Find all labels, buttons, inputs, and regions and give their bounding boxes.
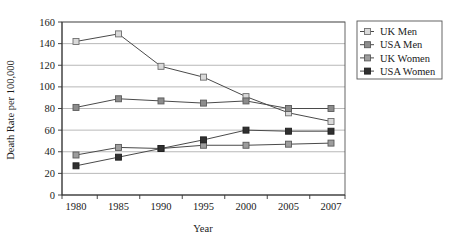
y-tick-label: 160 <box>39 17 55 28</box>
data-point-usa-men <box>286 106 292 112</box>
x-tick-label: 1990 <box>151 201 172 212</box>
y-tick-label: 40 <box>45 146 56 157</box>
data-point-uk-women <box>243 142 249 148</box>
data-point-uk-men <box>116 31 122 37</box>
data-point-usa-men <box>201 100 207 106</box>
legend-marker-uk-women <box>365 55 371 61</box>
chart-figure: 020406080100120140160 198019851990199520… <box>0 0 449 244</box>
data-point-usa-men <box>73 104 79 110</box>
chart-legend: UK MenUSA MenUK WomenUSA Women <box>357 21 442 79</box>
data-point-usa-women <box>158 146 164 152</box>
y-axis-title: Death Rate per 100,000 <box>5 60 16 160</box>
y-tick-label: 100 <box>39 81 55 92</box>
x-tick-label: 1995 <box>193 201 214 212</box>
data-point-uk-men <box>158 63 164 69</box>
y-tick-label: 60 <box>45 125 56 136</box>
legend-label-uk-men: UK Men <box>380 26 418 37</box>
legend-label-usa-women: USA Women <box>380 66 436 77</box>
data-point-usa-men <box>328 106 334 112</box>
y-tick-label: 140 <box>39 38 55 49</box>
data-point-usa-men <box>158 98 164 104</box>
legend-marker-usa-women <box>365 68 371 74</box>
legend-marker-uk-men <box>365 29 371 35</box>
x-tick-label: 2007 <box>321 201 342 212</box>
data-point-usa-women <box>116 154 122 160</box>
data-point-usa-women <box>286 128 292 134</box>
y-tick-label: 120 <box>39 60 55 71</box>
data-point-usa-men <box>243 98 249 104</box>
line-chart: 020406080100120140160 198019851990199520… <box>0 0 449 244</box>
data-point-uk-men <box>201 74 207 80</box>
data-point-usa-women <box>201 137 207 143</box>
x-tick-label: 1980 <box>66 201 87 212</box>
x-tick-label: 1985 <box>108 201 129 212</box>
x-axis-title: Year <box>193 223 213 234</box>
data-point-uk-men <box>328 118 334 124</box>
legend-marker-usa-men <box>365 42 371 48</box>
data-point-usa-men <box>116 96 122 102</box>
data-point-uk-women <box>73 152 79 158</box>
data-point-uk-women <box>328 140 334 146</box>
legend-label-usa-men: USA Men <box>380 39 423 50</box>
y-tick-label: 0 <box>50 190 55 201</box>
data-point-usa-women <box>328 128 334 134</box>
data-point-uk-men <box>73 38 79 44</box>
x-tick-label: 2000 <box>236 201 257 212</box>
x-tick-label: 2005 <box>278 201 299 212</box>
y-tick-label: 20 <box>45 168 56 179</box>
data-point-usa-women <box>73 163 79 169</box>
legend-label-uk-women: UK Women <box>380 53 431 64</box>
data-point-uk-women <box>286 141 292 147</box>
y-tick-label: 80 <box>45 103 56 114</box>
data-point-usa-women <box>243 127 249 133</box>
data-point-uk-women <box>116 144 122 150</box>
